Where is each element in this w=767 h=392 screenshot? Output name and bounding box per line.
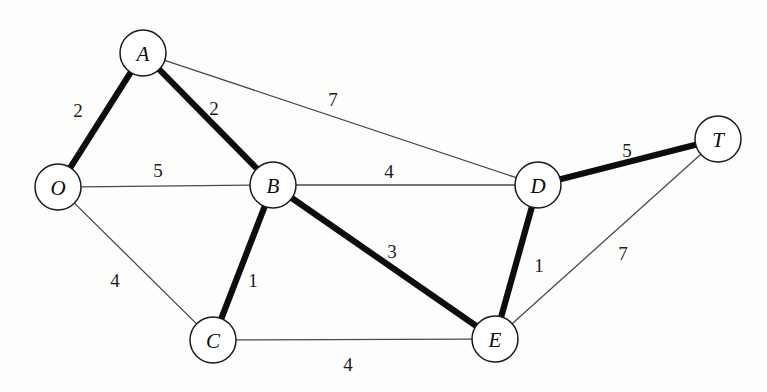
graph-node-o: O — [35, 164, 81, 210]
graph-node-c: C — [190, 317, 236, 363]
edge-weight-d-t: 5 — [622, 140, 632, 161]
graph-edge-o-b — [81, 185, 250, 187]
graph-node-d: D — [515, 162, 561, 208]
node-label-e: E — [488, 328, 502, 352]
graph-svg: AOBDTCE 227545413174 — [0, 0, 767, 392]
node-label-b: B — [267, 174, 280, 198]
edge-weight-b-e: 3 — [387, 241, 397, 262]
graph-edge-c-e — [236, 339, 472, 340]
edge-weight-b-d: 4 — [384, 161, 394, 182]
edges-layer — [70, 60, 701, 340]
graph-edge-b-e — [292, 198, 476, 326]
edge-weight-a-d: 7 — [328, 89, 338, 110]
edge-weight-b-c: 1 — [248, 270, 258, 291]
node-label-c: C — [206, 329, 221, 353]
graph-edge-d-e — [501, 207, 532, 317]
node-label-t: T — [712, 128, 725, 152]
graph-edge-o-c — [74, 203, 196, 324]
edge-weights-layer: 227545413174 — [73, 89, 632, 375]
node-label-a: A — [135, 42, 150, 66]
graph-edge-b-c — [221, 206, 264, 318]
edge-weight-d-e: 1 — [534, 255, 544, 276]
graph-edge-a-d — [165, 60, 516, 177]
edge-weight-e-t: 7 — [618, 243, 628, 264]
nodes-layer: AOBDTCE — [35, 30, 741, 363]
graph-node-e: E — [472, 316, 518, 362]
edge-weight-o-c: 4 — [110, 270, 120, 291]
graph-node-t: T — [695, 116, 741, 162]
edge-weight-c-e: 4 — [343, 354, 353, 375]
node-label-o: O — [50, 176, 65, 200]
edge-weight-a-b: 2 — [209, 98, 219, 119]
edge-weight-o-b: 5 — [153, 160, 163, 181]
graph-node-b: B — [250, 162, 296, 208]
graph-node-a: A — [120, 30, 166, 76]
edge-weight-o-a: 2 — [73, 100, 83, 121]
node-label-d: D — [529, 174, 545, 198]
graph-diagram-canvas: AOBDTCE 227545413174 — [0, 0, 767, 392]
graph-edge-a-b — [159, 69, 257, 168]
